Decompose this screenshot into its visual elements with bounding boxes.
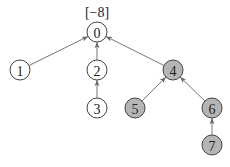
node-label: 5 (132, 102, 139, 117)
tree-node-0: 0 (87, 22, 107, 42)
tree-node-7: 7 (202, 135, 222, 155)
tree-node-1: 1 (10, 60, 30, 80)
node-label: 6 (209, 102, 216, 117)
edges-group (29, 36, 212, 135)
tree-node-4: 4 (163, 60, 183, 80)
edge-1-to-0 (29, 36, 88, 65)
edge-5-to-4 (142, 77, 166, 101)
tree-node-2: 2 (87, 60, 107, 80)
tree-node-5: 5 (125, 98, 145, 118)
node-label: 1 (17, 64, 24, 79)
node-label: 2 (94, 64, 101, 79)
tree-node-3: 3 (87, 98, 107, 118)
edge-4-to-0 (106, 36, 164, 65)
node-label: 3 (94, 102, 101, 117)
node-label: 0 (94, 26, 101, 41)
edge-6-to-4 (180, 77, 205, 101)
node-label: 7 (209, 139, 216, 154)
tree-diagram: 01234567 [−8] (0, 0, 230, 167)
root-value-label: [−8] (85, 5, 109, 20)
tree-node-6: 6 (202, 98, 222, 118)
node-label: 4 (170, 64, 177, 79)
